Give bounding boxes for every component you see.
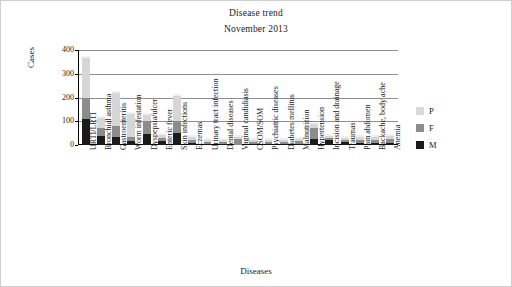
bar-top-face [173, 94, 181, 96]
gridline [78, 50, 398, 51]
chart-subtitle: November 2013 [0, 24, 512, 34]
bar-top-face [82, 56, 90, 58]
chart-legend: PFM [416, 106, 437, 157]
bar-segment-p[interactable] [82, 58, 90, 97]
legend-item[interactable]: P [416, 106, 437, 116]
y-tick-label: 300 [48, 70, 74, 78]
legend-item[interactable]: F [416, 123, 437, 133]
y-tick-mark [75, 145, 78, 146]
y-tick-label: 0 [48, 141, 74, 149]
chart-title: Disease trend [0, 8, 512, 18]
x-tick-label: Eczemas [195, 122, 204, 150]
legend-swatch [416, 141, 424, 149]
y-tick-label: 200 [48, 94, 74, 102]
legend-label: M [429, 140, 437, 150]
gridline [78, 98, 398, 99]
legend-label: F [429, 123, 434, 133]
y-tick-label: 400 [48, 46, 74, 54]
x-axis-label: Diseases [0, 266, 512, 276]
legend-swatch [416, 124, 424, 132]
plot-area: 0100200300400URTI/LRTIBronchial asthmaGa… [78, 50, 398, 145]
legend-item[interactable]: M [416, 140, 437, 150]
legend-swatch [416, 107, 424, 115]
legend-label: P [429, 106, 434, 116]
y-tick-label: 100 [48, 117, 74, 125]
x-tick-label: Anemia [393, 125, 402, 150]
y-axis-label: Cases [26, 47, 36, 68]
gridline [78, 74, 398, 75]
bar-top-face [112, 91, 120, 93]
y-axis [78, 50, 79, 145]
